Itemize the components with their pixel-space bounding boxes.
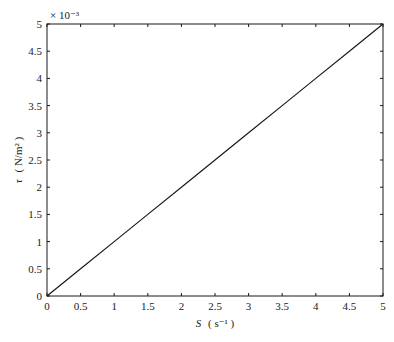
y-tick-label: 2.5 (28, 154, 42, 166)
y-tick-label: 1 (37, 236, 43, 248)
x-axis-unit: ( s⁻¹ ) (208, 317, 235, 330)
y-tick-label: 0 (37, 290, 43, 302)
y-axis-label: τ ( N/m² ) (12, 136, 25, 183)
chart-canvas: 00.511.522.533.544.55 00.511.522.533.544… (0, 0, 394, 342)
x-axis-variable: S (196, 317, 202, 329)
y-tick-label: 0.5 (28, 263, 42, 275)
y-tick-label: 2 (37, 181, 43, 193)
y-tick-label: 3.5 (28, 100, 42, 112)
y-tick-label: 5 (37, 18, 43, 30)
x-tick-label: 2 (179, 300, 185, 312)
x-axis-label: S ( s⁻¹ ) (196, 317, 235, 330)
x-tick-label: 5 (380, 300, 386, 312)
x-tick-label: 4 (313, 300, 319, 312)
y-axis-unit: ( N/m² ) (12, 136, 25, 172)
y-tick-label: 4.5 (28, 45, 42, 57)
x-tick-label: 0.5 (74, 300, 88, 312)
x-tick-label: 4.5 (343, 300, 357, 312)
x-tick-label: 1.5 (141, 300, 155, 312)
y-axis-multiplier: × 10⁻³ (50, 9, 80, 21)
x-tick-label: 3.5 (275, 300, 289, 312)
x-tick-label: 3 (246, 300, 252, 312)
x-tick-label: 0 (44, 300, 50, 312)
y-tick-label: 3 (37, 127, 43, 139)
y-tick-label: 4 (37, 72, 43, 84)
x-tick-label: 2.5 (208, 300, 222, 312)
y-tick-label: 1.5 (28, 208, 42, 220)
y-axis-label-text: τ ( N/m² ) (12, 136, 25, 183)
y-axis-variable: τ (12, 178, 24, 183)
x-tick-label: 1 (111, 300, 117, 312)
